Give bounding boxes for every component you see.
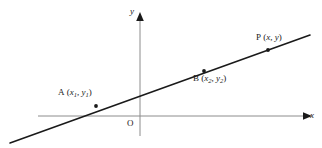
point-a-close-paren: ) bbox=[89, 87, 92, 97]
point-marker-a bbox=[94, 104, 98, 108]
point-label-p: P (x, y) bbox=[256, 33, 282, 42]
point-b-close-paren: ) bbox=[223, 73, 226, 83]
point-b-x-subscript: 2 bbox=[208, 77, 211, 84]
y-axis-arrowhead-icon bbox=[136, 12, 144, 21]
point-b-y-subscript: 2 bbox=[220, 77, 223, 84]
origin-label: O bbox=[127, 119, 134, 128]
y-axis-label: y bbox=[130, 7, 134, 16]
coordinate-plane-graphic bbox=[0, 0, 322, 148]
point-marker-p bbox=[266, 48, 270, 52]
plotted-line bbox=[10, 35, 310, 143]
point-p-close-paren: ) bbox=[279, 32, 282, 42]
point-a-x-subscript: 1 bbox=[74, 91, 77, 98]
point-label-a: A (x1, y1) bbox=[58, 88, 92, 97]
point-a-y-subscript: 1 bbox=[86, 91, 89, 98]
point-label-b: B (x2, y2) bbox=[193, 74, 226, 83]
x-axis-label: x bbox=[310, 111, 314, 120]
point-a-y: y bbox=[82, 87, 86, 97]
diagram-canvas: y x O A (x1, y1) B (x2, y2) P (x, y) bbox=[0, 0, 322, 148]
